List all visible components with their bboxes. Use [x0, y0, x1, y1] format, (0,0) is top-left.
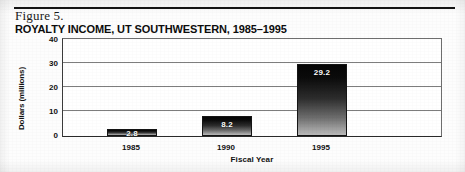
figure-number: Figure 5.: [15, 9, 64, 23]
figure-page: Figure 5. ROYALTY INCOME, UT SOUTHWESTER…: [0, 0, 465, 172]
bar-value-1990: 8.2: [203, 120, 251, 129]
bar-1995[interactable]: 29.2: [297, 64, 347, 136]
figure-title: ROYALTY INCOME, UT SOUTHWESTERN, 1985–19…: [15, 23, 287, 35]
x-tick-1995: 1995: [281, 143, 361, 152]
gridline-20: [63, 86, 441, 87]
bar-1990[interactable]: 8.2: [202, 116, 252, 136]
y-tick-30: 30: [32, 60, 58, 68]
x-tick-1985: 1985: [91, 143, 171, 152]
bar-chart: Dollars (millions) 40 30 20 10 0 2.8 8.2…: [0, 36, 465, 172]
y-tick-40: 40: [32, 36, 58, 44]
bar-1985[interactable]: 2.8: [107, 129, 157, 136]
x-axis-title: Fiscal Year: [62, 155, 442, 164]
gridline-30: [63, 62, 441, 63]
x-tick-1990: 1990: [186, 143, 266, 152]
plot-area: 2.8 8.2 29.2: [62, 38, 442, 137]
y-axis-tick-labels: 40 30 20 10 0: [28, 36, 58, 139]
y-tick-10: 10: [32, 108, 58, 116]
y-tick-20: 20: [32, 84, 58, 92]
header-rule: [14, 7, 455, 9]
y-tick-0: 0: [32, 132, 58, 140]
bar-value-1995: 29.2: [298, 68, 346, 77]
bar-value-1985: 2.8: [108, 129, 156, 138]
gridline-10: [63, 110, 441, 111]
y-axis-title: Dollars (millions): [17, 56, 26, 142]
